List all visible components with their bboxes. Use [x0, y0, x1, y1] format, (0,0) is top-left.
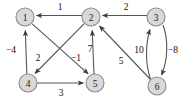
edge-weight-6-to-2: 5: [119, 56, 124, 66]
edge-weight-6-to-3: 10: [134, 45, 144, 55]
edge-5-to-2: [92, 31, 94, 75]
edges-layer: [25, 16, 166, 84]
node-1-label: 1: [23, 13, 28, 23]
edge-4-to-1: [25, 31, 27, 75]
edge-weight-4-to-5: 3: [59, 88, 64, 98]
edge-1-to-5: [32, 24, 88, 74]
edge-weight-3-to-2: 2: [124, 2, 129, 12]
edge-weight-5-to-2: 7: [88, 44, 93, 54]
edge-6-to-3: [146, 30, 150, 80]
edge-weight-4-to-1: −4: [6, 45, 16, 55]
node-6-label: 6: [155, 82, 160, 92]
node-4-label: 4: [26, 79, 31, 89]
weighted-directed-graph-figure: 1 2 −4 2 −1 7 3 5 10 −8 1 2 3: [0, 0, 190, 104]
node-4: 4: [19, 74, 37, 92]
node-5-label: 5: [93, 79, 98, 89]
node-2: 2: [82, 8, 100, 26]
edge-weight-2-to-1: 1: [58, 2, 63, 12]
graph-canvas: 1 2 −4 2 −1 7 3 5 10 −8 1 2 3: [0, 0, 190, 104]
node-3: 3: [147, 8, 165, 26]
edge-3-to-6: [162, 25, 167, 75]
edge-weight-3-to-6: −8: [168, 45, 178, 55]
edge-weight-1-to-5: −1: [71, 53, 81, 63]
node-2-label: 2: [89, 13, 94, 23]
node-3-label: 3: [154, 13, 159, 23]
node-1: 1: [16, 8, 34, 26]
node-5: 5: [86, 74, 104, 92]
node-6: 6: [148, 77, 166, 95]
edge-weight-2-to-4: 2: [36, 53, 41, 63]
